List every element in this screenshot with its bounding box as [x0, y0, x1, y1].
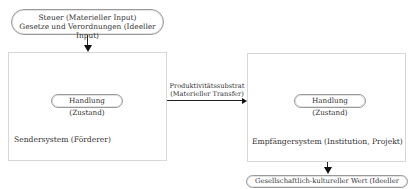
transfer-material-label: (Materieller Transfer) — [167, 90, 247, 98]
input-node: Steuer (Materieller Input) Gesetze und V… — [11, 9, 164, 35]
transfer-label: Produktivitätssubstrat (Materieller Tran… — [167, 82, 247, 98]
output-node: Gesellschaftlich-kultureller Wert (Ideel… — [246, 175, 408, 188]
output-label: Gesellschaftlich-kultureller Wert (Ideel… — [255, 177, 399, 189]
sender-state-node: Handlung (Zustand) — [51, 94, 123, 108]
sender-state-label: Handlung (Zustand) — [69, 96, 105, 117]
receiver-state-node: Handlung (Zustand) — [294, 94, 366, 108]
receiver-state-label: Handlung (Zustand) — [312, 96, 348, 117]
output-arrow-head — [324, 167, 332, 174]
sender-system-label: Sendersystem (Förderer) — [14, 135, 111, 144]
input-arrow-head — [84, 45, 92, 52]
input-material-label: Steuer (Materieller Input) — [12, 13, 163, 22]
transfer-substrate-label: Produktivitätssubstrat — [167, 82, 247, 90]
receiver-system-label: Empfängersystem (Institution, Projekt) — [252, 137, 403, 146]
transfer-arrow-line — [167, 100, 243, 101]
